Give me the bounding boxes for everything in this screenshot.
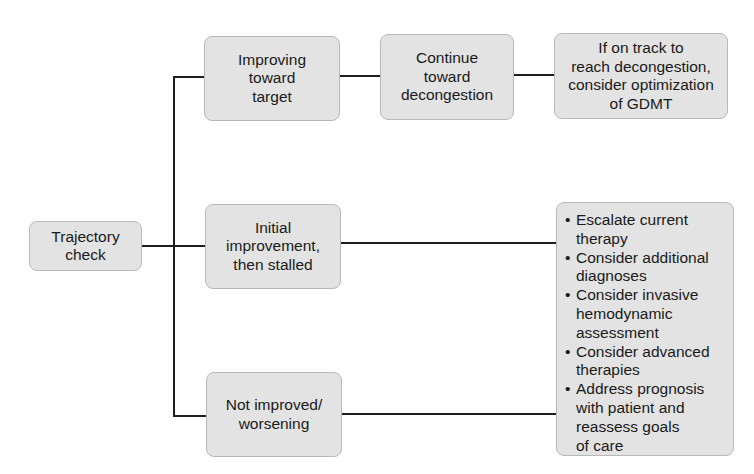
node-trajectory-check: Trajectory check (29, 221, 142, 271)
action-item-address-prognosis: • Address prognosis with patient and rea… (565, 380, 727, 455)
bullet-icon: • (565, 249, 570, 268)
connector-stalled-to-actions (340, 242, 557, 244)
connector-trunk-to-worsening (173, 415, 207, 417)
connector-trunk-to-stalled (173, 245, 206, 247)
connector-improving-to-continue (339, 75, 381, 77)
node-escalation-actions: • Escalate current therapy • Consider ad… (556, 202, 734, 456)
node-label-line: of GDMT (568, 95, 714, 114)
action-item-invasive-hemodynamic: • Consider invasive hemodynamic assessme… (565, 286, 727, 342)
action-item-additional-diagnoses: • Consider additional diagnoses (565, 249, 727, 287)
node-label-line: Continue (401, 49, 493, 68)
node-label-line: check (51, 246, 119, 265)
action-list: • Escalate current therapy • Consider ad… (565, 211, 727, 455)
connector-worsening-to-actions (341, 413, 557, 415)
bullet-icon: • (565, 380, 570, 399)
node-optimize-gdmt: If on track to reach decongestion, consi… (554, 33, 728, 119)
node-label-line: toward (238, 69, 306, 88)
node-label-line: consider optimization (568, 76, 714, 95)
connector-continue-to-ontrack (513, 74, 555, 76)
node-label-line: toward (401, 68, 493, 87)
node-label-line: Improving (238, 51, 306, 70)
node-label-line: reach decongestion, (568, 58, 714, 77)
node-label-line: Not improved/ (226, 396, 322, 415)
bullet-icon: • (565, 286, 570, 305)
node-improving-toward-target: Improving toward target (204, 36, 340, 121)
node-label-line: Initial (226, 219, 320, 238)
node-not-improved-worsening: Not improved/ worsening (206, 372, 342, 457)
connector-trunk-to-improving (173, 76, 205, 78)
node-label-line: worsening (226, 415, 322, 434)
bullet-icon: • (565, 343, 570, 362)
node-label-line: If on track to (568, 39, 714, 58)
action-item-escalate-therapy: • Escalate current therapy (565, 211, 727, 249)
bullet-icon: • (565, 211, 570, 230)
connector-root-to-trunk (142, 245, 175, 247)
node-label-line: decongestion (401, 86, 493, 105)
node-label-line: improvement, (226, 237, 320, 256)
node-initial-improvement-then-stalled: Initial improvement, then stalled (205, 204, 341, 289)
node-label-line: then stalled (226, 256, 320, 275)
action-item-advanced-therapies: • Consider advanced therapies (565, 343, 727, 381)
node-continue-toward-decongestion: Continue toward decongestion (380, 34, 514, 120)
node-label-line: target (238, 88, 306, 107)
node-label-line: Trajectory (51, 228, 119, 247)
